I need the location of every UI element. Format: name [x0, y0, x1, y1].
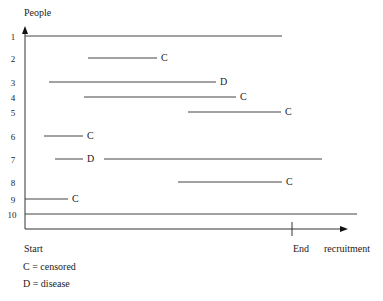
disease-mark: D: [87, 154, 94, 164]
censored-mark: C: [161, 53, 168, 63]
row-number: 3: [6, 79, 20, 88]
row-number: 6: [6, 133, 20, 142]
end-label: End: [293, 244, 309, 254]
x-axis-arrowhead-icon: [340, 226, 348, 232]
y-axis-arrowhead-icon: [22, 26, 28, 34]
censored-mark: C: [72, 194, 79, 204]
diagram-lines: [0, 0, 383, 301]
row-number: 7: [6, 156, 20, 165]
legend-censored: C = censored: [23, 262, 76, 272]
censored-mark: C: [285, 107, 292, 117]
censored-mark: C: [240, 92, 247, 102]
row-number: 4: [6, 94, 20, 103]
row-number: 1: [6, 33, 20, 42]
follow-up-segments: [25, 36, 357, 214]
y-axis-label: People: [24, 8, 51, 18]
censored-mark: C: [87, 131, 94, 141]
disease-mark: D: [220, 77, 227, 87]
row-number: 9: [6, 196, 20, 205]
start-label: Start: [24, 244, 43, 254]
legend-disease: D = disease: [23, 279, 70, 289]
row-number: 5: [6, 109, 20, 118]
row-number: 2: [6, 55, 20, 64]
recruitment-label: recruitment: [324, 244, 370, 254]
row-number: 8: [6, 179, 20, 188]
row-number: 10: [5, 211, 19, 220]
censored-mark: C: [286, 177, 293, 187]
